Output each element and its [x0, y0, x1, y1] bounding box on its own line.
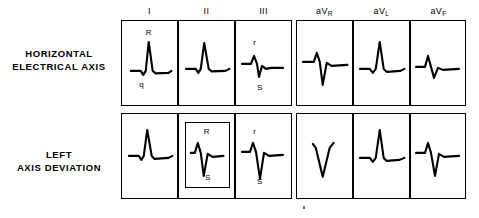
column-header-lead-avf: aVF [410, 6, 467, 16]
ecg-cell-row2-lead-avr [298, 115, 353, 198]
column-header-lead-avl: aVL [353, 6, 410, 16]
row-label-left-axis-deviation: LEFT AXIS DEVIATION [0, 149, 118, 174]
ecg-waveform-small-r-with-S [237, 22, 291, 105]
annotation-r-wave: r [248, 38, 262, 47]
ecg-cell-row2-lead-avf [412, 115, 465, 198]
column-header-lead-1: I [121, 6, 178, 16]
ecg-cell-row2-lead-3: r S [237, 115, 291, 198]
ecg-axis-comparison-diagram: HORIZONTAL ELECTRICAL AXIS LEFT AXIS DEV… [0, 0, 479, 218]
ecg-cell-row1-lead-2 [180, 22, 235, 105]
annotation-q-wave: q [133, 80, 151, 89]
ecg-cell-row1-lead-avf [412, 22, 465, 105]
ecg-waveform-tall-positive-R [123, 115, 178, 198]
ecg-cell-row1-lead-3: r S [237, 22, 291, 105]
ecg-cell-row2-lead-1 [123, 115, 178, 198]
column-header-base: aV [430, 6, 442, 16]
row-label-line-2: ELECTRICAL AXIS [0, 61, 118, 74]
ecg-waveform-tall-positive-R [180, 22, 235, 105]
column-header-base: II [204, 6, 210, 16]
column-header-lead-2: II [178, 6, 235, 16]
column-header-base: I [148, 6, 151, 16]
column-header-subscript: F [442, 10, 446, 17]
row-label-line-2: AXIS DEVIATION [0, 162, 118, 175]
column-header-subscript: L [385, 10, 389, 17]
ecg-waveform-small-r-with-deep-S [298, 22, 353, 105]
annotation-S-wave: S [253, 177, 267, 186]
annotation-S-wave: S [253, 83, 267, 92]
ecg-waveform-deep-QS [298, 115, 353, 198]
column-header-lead-3: III [235, 6, 292, 16]
ecg-cell-row2-lead-2: R S [180, 115, 235, 198]
annotation-R-wave: R [200, 127, 214, 136]
row-label-line-1: LEFT [0, 149, 118, 162]
row-label-horizontal-electrical-axis: HORIZONTAL ELECTRICAL AXIS [0, 48, 118, 73]
annotation-R-wave: R [140, 28, 158, 37]
ecg-cell-row1-lead-avr [298, 22, 353, 105]
ecg-cell-row1-lead-1: R q [123, 22, 178, 105]
annotation-S-wave: S [201, 173, 215, 182]
annotation-r-wave: r [248, 127, 262, 136]
scan-artifact-speck [303, 206, 305, 209]
column-header-lead-avr: aVR [296, 6, 353, 16]
row-label-line-1: HORIZONTAL [0, 48, 118, 61]
ecg-waveform-tall-positive-R [355, 22, 410, 105]
column-header-base: aV [374, 6, 386, 16]
ecg-waveform-tall-positive-R [355, 115, 410, 198]
column-header-base: III [259, 6, 268, 16]
column-header-subscript: R [328, 10, 333, 17]
ecg-cell-row1-lead-avl [355, 22, 410, 105]
ecg-cell-row2-lead-avl [355, 115, 410, 198]
ecg-waveform-small-r-with-S [412, 22, 465, 105]
ecg-waveform-small-r-with-deep-S [412, 115, 465, 198]
column-header-base: aV [316, 6, 328, 16]
